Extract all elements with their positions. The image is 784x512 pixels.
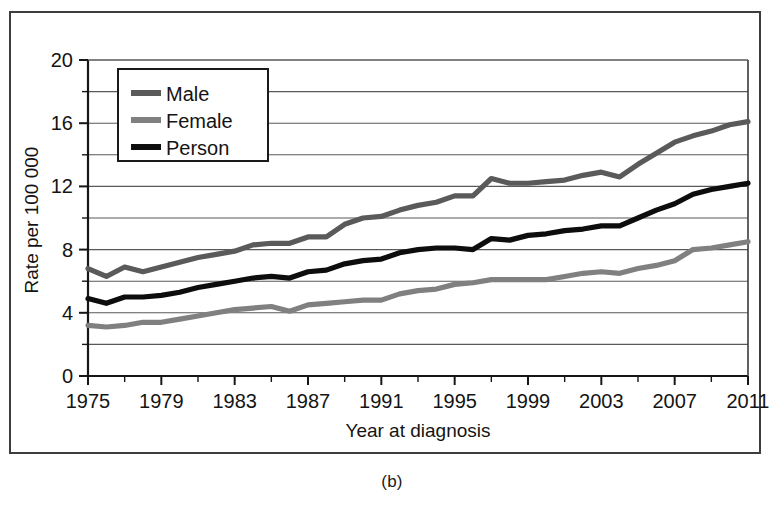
x-tick-label: 1975 <box>66 390 111 412</box>
y-tick-label: 8 <box>62 239 73 261</box>
y-tick-label: 0 <box>62 365 73 387</box>
x-tick-label: 1995 <box>432 390 477 412</box>
series-line-person <box>88 183 748 303</box>
x-tick-label: 1979 <box>139 390 184 412</box>
chart-legend: MaleFemalePerson <box>118 69 268 161</box>
legend-label-person: Person <box>166 137 229 159</box>
x-tick-label: 1987 <box>286 390 331 412</box>
y-axis-tick-labels: 048121620 <box>51 49 73 387</box>
y-axis-title: Rate per 100 000 <box>21 147 42 294</box>
y-tick-label: 16 <box>51 112 73 134</box>
y-tick-label: 20 <box>51 49 73 71</box>
x-tick-label: 2003 <box>579 390 624 412</box>
line-chart: 048121620 197519791983198719911995199920… <box>0 0 784 512</box>
y-tick-label: 4 <box>62 302 73 324</box>
x-tick-label: 2011 <box>726 390 769 412</box>
y-tick-label: 12 <box>51 175 73 197</box>
legend-label-male: Male <box>166 83 209 105</box>
y-axis-ticks <box>79 60 88 376</box>
figure-caption: (b) <box>0 472 784 492</box>
x-tick-label: 2007 <box>652 390 697 412</box>
figure-panel: 048121620 197519791983198719911995199920… <box>0 0 784 512</box>
x-axis-ticks <box>88 376 748 385</box>
x-tick-label: 1983 <box>212 390 257 412</box>
legend-label-female: Female <box>166 110 233 132</box>
x-tick-label: 1999 <box>506 390 551 412</box>
x-axis-tick-labels: 1975197919831987199119951999200320072011 <box>66 390 770 412</box>
chart-stage: 048121620 197519791983198719911995199920… <box>0 0 784 512</box>
x-tick-label: 1991 <box>359 390 404 412</box>
series-line-female <box>88 242 748 327</box>
x-axis-title: Year at diagnosis <box>345 420 490 441</box>
